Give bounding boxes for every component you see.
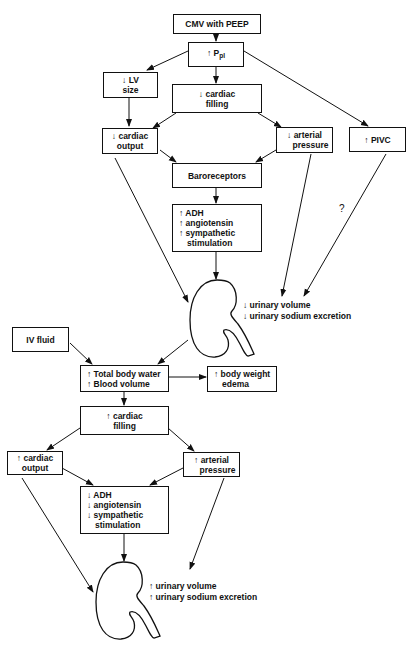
iv-fluid-box: IV fluid [12, 327, 69, 352]
cmv-with-peep-box: CMV with PEEP [173, 14, 261, 34]
kidney-effects-label-bottom: ↑ urinary volume ↑ urinary sodium excret… [149, 581, 257, 602]
arterial-pressure-box: ↓ arterial pressure [276, 127, 333, 153]
baroreceptors-box: Baroreceptors [172, 163, 262, 188]
cardiac-output-box: ↓ cardiac output [102, 128, 158, 154]
body-weight-box: ↑ body weight edema [207, 366, 277, 392]
body-water-box: ↑ Total body water ↑ Blood volume [80, 365, 169, 392]
hormones-box-bottom: ↓ ADH ↓ angiotensin ↓ sympathetic stimul… [80, 486, 169, 534]
hormones-box: ↑ ADH ↑ angiotensin ↑ sympathetic stimul… [172, 204, 262, 252]
pleural-pressure-box: ↑ Ppl [188, 42, 244, 67]
cardiac-output-box-bottom: ↑ cardiac output [7, 451, 63, 475]
arterial-pressure-box-bottom: ↑ arterial pressure [183, 452, 240, 477]
cardiac-filling-box-bottom: ↑ cardiac filling [80, 406, 169, 435]
lv-size-box: ↓ LV size [103, 72, 158, 98]
cardiac-filling-box: ↓ cardiac filling [172, 84, 262, 113]
pivc-box: ↑ PIVC [349, 127, 406, 152]
uncertain-link-label: ? [339, 203, 345, 214]
kidney-effects-label: ↓ urinary volume ↓ urinary sodium excret… [243, 300, 351, 321]
